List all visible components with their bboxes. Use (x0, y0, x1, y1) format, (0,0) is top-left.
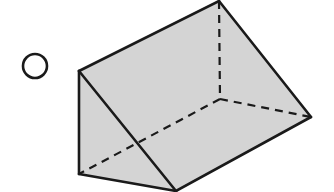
radio-option-circle[interactable] (23, 54, 47, 78)
figure-canvas (0, 0, 334, 192)
triangular-prism-diagram (0, 0, 334, 192)
prism-solid-fill (79, 1, 311, 191)
